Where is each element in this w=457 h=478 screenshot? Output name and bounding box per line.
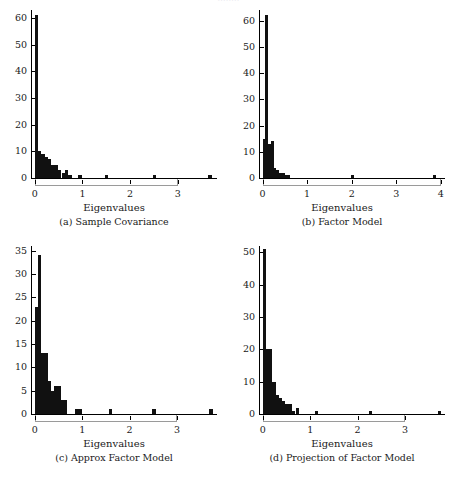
chart-panel-b: 010203040506001234 Eigenvalues (b) Facto… xyxy=(228,2,456,237)
chart-caption-a: (a) Sample Covariance xyxy=(0,216,228,227)
y-tick-label: 5 xyxy=(21,386,27,396)
clipped-header-text: ........ xyxy=(0,0,457,1)
y-tick-mark xyxy=(32,274,36,275)
y-tick-label: 60 xyxy=(15,13,27,23)
x-tick-label: 2 xyxy=(127,425,133,435)
x-tick-label: 2 xyxy=(355,425,361,435)
y-tick-mark xyxy=(32,251,36,252)
y-tick-label: 20 xyxy=(243,345,255,355)
histogram-bar xyxy=(292,411,295,414)
y-tick-label: 0 xyxy=(21,409,27,419)
histogram-bar xyxy=(64,400,67,414)
x-tick-mark xyxy=(263,180,264,184)
y-axis-line xyxy=(31,10,32,179)
x-tick-mark xyxy=(352,180,353,184)
histogram-bar xyxy=(105,175,108,178)
histogram-bar xyxy=(208,175,211,178)
x-tick-mark xyxy=(82,180,83,184)
y-tick-label: 40 xyxy=(15,67,27,77)
chart-caption-d: (d) Projection of Factor Model xyxy=(228,452,456,463)
y-tick-label: 0 xyxy=(249,173,255,183)
y-axis-line xyxy=(31,246,32,415)
y-axis-line xyxy=(259,10,260,179)
x-axis-label-d: Eigenvalues xyxy=(228,438,456,449)
y-tick-mark xyxy=(32,414,36,415)
x-tick-mark xyxy=(82,416,83,420)
histogram-bar xyxy=(433,175,436,178)
y-tick-label: 20 xyxy=(15,120,27,130)
plot-area-a: 01020304050600123 xyxy=(0,2,228,192)
y-tick-label: 10 xyxy=(15,363,27,373)
y-tick-mark xyxy=(32,178,36,179)
x-tick-label: 0 xyxy=(260,425,266,435)
chart-caption-c: (c) Approx Factor Model xyxy=(0,452,228,463)
x-tick-label: 1 xyxy=(79,425,85,435)
x-tick-label: 4 xyxy=(438,189,444,199)
y-tick-label: 20 xyxy=(243,121,255,131)
x-tick-label: 0 xyxy=(260,189,266,199)
histogram-bar xyxy=(153,175,156,178)
x-tick-mark xyxy=(307,180,308,184)
x-tick-mark xyxy=(263,416,264,420)
y-tick-mark xyxy=(260,99,264,100)
histogram-bar xyxy=(351,175,354,178)
histogram-bar xyxy=(68,175,71,178)
x-tick-mark xyxy=(396,180,397,184)
chart-caption-b: (b) Factor Model xyxy=(228,216,456,227)
y-tick-label: 40 xyxy=(243,68,255,78)
histogram-bar xyxy=(78,409,81,414)
histogram-bar xyxy=(109,409,112,414)
histogram-bar xyxy=(78,175,81,178)
y-tick-mark xyxy=(260,414,264,415)
y-tick-label: 10 xyxy=(15,147,27,157)
plot-area-d: 010203040500123 xyxy=(228,238,456,428)
histogram-bar xyxy=(209,409,212,414)
y-tick-label: 50 xyxy=(243,248,255,258)
histogram-bar xyxy=(315,411,318,414)
x-tick-label: 2 xyxy=(127,189,133,199)
y-tick-label: 30 xyxy=(15,269,27,279)
histogram-bar xyxy=(287,175,290,178)
chart-panel-a: 01020304050600123 Eigenvalues (a) Sample… xyxy=(0,2,228,237)
x-tick-label: 3 xyxy=(174,425,180,435)
y-tick-label: 15 xyxy=(15,339,27,349)
x-tick-mark xyxy=(177,416,178,420)
y-tick-label: 20 xyxy=(15,316,27,326)
x-axis-label-b: Eigenvalues xyxy=(228,202,456,213)
x-tick-mark xyxy=(130,180,131,184)
x-tick-label: 1 xyxy=(79,189,85,199)
histogram-bar xyxy=(438,411,441,414)
plot-area-b: 010203040506001234 xyxy=(228,2,456,192)
x-tick-label: 3 xyxy=(175,189,181,199)
x-tick-mark xyxy=(441,180,442,184)
y-tick-label: 0 xyxy=(21,173,27,183)
x-tick-label: 0 xyxy=(32,189,38,199)
x-tick-mark xyxy=(358,416,359,420)
y-tick-label: 40 xyxy=(243,280,255,290)
histogram-bar xyxy=(296,408,299,414)
x-tick-label: 3 xyxy=(402,425,408,435)
x-tick-mark xyxy=(35,416,36,420)
axis-frame-rule xyxy=(35,415,177,422)
y-tick-mark xyxy=(260,73,264,74)
y-axis-line xyxy=(259,246,260,415)
x-tick-label: 2 xyxy=(349,189,355,199)
y-tick-label: 10 xyxy=(243,377,255,387)
y-tick-label: 0 xyxy=(249,409,255,419)
y-tick-label: 25 xyxy=(15,293,27,303)
y-tick-label: 35 xyxy=(15,246,27,256)
y-tick-label: 30 xyxy=(243,312,255,322)
y-tick-mark xyxy=(32,297,36,298)
x-tick-mark xyxy=(130,416,131,420)
y-tick-mark xyxy=(260,178,264,179)
x-axis-label-c: Eigenvalues xyxy=(0,438,228,449)
x-tick-label: 1 xyxy=(307,425,313,435)
histogram-bar xyxy=(369,411,372,414)
y-tick-label: 30 xyxy=(15,93,27,103)
y-tick-label: 10 xyxy=(243,147,255,157)
y-tick-label: 30 xyxy=(243,95,255,105)
eigenvalue-histogram-figure: ........ 01020304050600123 Eigenvalues (… xyxy=(0,0,457,478)
x-tick-label: 1 xyxy=(304,189,310,199)
y-tick-mark xyxy=(260,21,264,22)
chart-panel-c: 051015202530350123 Eigenvalues (c) Appro… xyxy=(0,238,228,473)
